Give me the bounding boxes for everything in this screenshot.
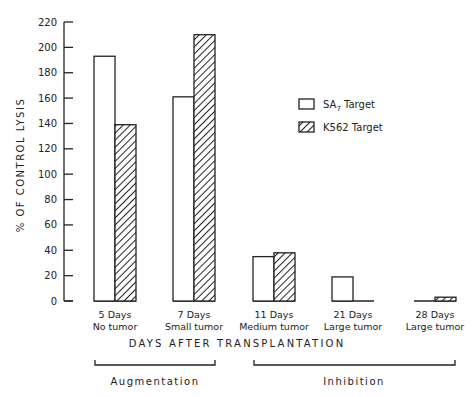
y-tick-label: 80 [44, 194, 57, 205]
x-tick-label: 11 Days [255, 309, 294, 320]
bar-k562 [115, 125, 136, 301]
x-tick-sublabel: No tumor [93, 321, 138, 332]
inhibition-label: Inhibition [323, 376, 385, 387]
x-tick-sublabel: Small tumor [165, 321, 223, 332]
y-tick-label: 120 [38, 143, 57, 154]
legend-label-sa7: SA7 Target [323, 99, 375, 113]
y-tick-label: 20 [44, 270, 57, 281]
y-tick-label: 0 [51, 296, 57, 307]
bar-k562 [274, 253, 295, 301]
bar-sa7 [253, 257, 274, 301]
bar-sa7 [173, 97, 194, 301]
x-tick-labels: 5 DaysNo tumor7 DaysSmall tumor11 DaysMe… [93, 309, 465, 332]
x-tick-sublabel: Medium tumor [239, 321, 309, 332]
y-tick-label: 160 [38, 93, 57, 104]
bar-chart: 020406080100120140160180200220 % OF CONT… [0, 0, 475, 397]
y-tick-label: 40 [44, 245, 57, 256]
inhibition-bracket [254, 360, 455, 365]
legend: SA7 Target K562 Target [299, 99, 383, 133]
bar-sa7 [332, 277, 353, 301]
y-axis: 020406080100120140160180200220 [38, 17, 73, 307]
bars [64, 35, 456, 301]
y-tick-label: 200 [38, 42, 57, 53]
legend-label-k562: K562 Target [323, 122, 383, 133]
x-tick-label: 7 Days [178, 309, 211, 320]
x-tick-label: 28 Days [416, 309, 455, 320]
y-tick-label: 180 [38, 67, 57, 78]
y-tick-label: 140 [38, 118, 57, 129]
augmentation-bracket [95, 360, 215, 365]
legend-swatch-open [299, 99, 314, 109]
x-tick-sublabel: Large tumor [324, 321, 383, 332]
x-tick-label: 5 Days [99, 309, 132, 320]
y-axis-label: % OF CONTROL LYSIS [15, 98, 26, 233]
x-tick-sublabel: Large tumor [406, 321, 465, 332]
y-tick-label: 220 [38, 17, 57, 28]
legend-swatch-hatched [299, 122, 314, 132]
bar-k562 [194, 35, 215, 301]
group-brackets: Augmentation Inhibition [95, 360, 455, 387]
augmentation-label: Augmentation [111, 376, 200, 387]
y-tick-label: 60 [44, 219, 57, 230]
x-axis-label: DAYS AFTER TRANSPLANTATION [129, 338, 346, 349]
bar-k562 [435, 297, 456, 301]
bar-sa7 [94, 56, 115, 301]
x-tick-label: 21 Days [334, 309, 373, 320]
y-tick-label: 100 [38, 169, 57, 180]
